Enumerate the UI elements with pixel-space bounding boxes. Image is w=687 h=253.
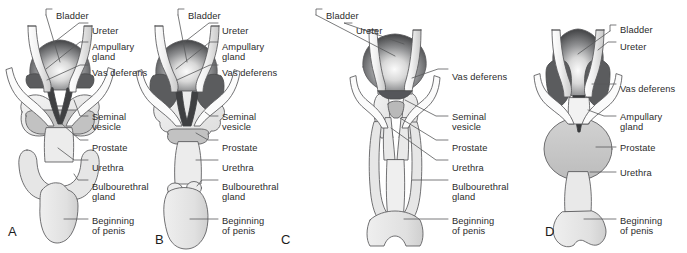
label-seminal-vesicle-b-1: Seminal [222,112,256,122]
label-ampullary-gland-d-2: gland [620,122,643,132]
label-bulbourethral-a-2: gland [92,192,115,202]
penis-shape-a [40,183,78,243]
label-penis-c-1: Beginning [452,216,494,226]
label-ampullary-gland-b-2: gland [222,52,245,62]
label-bulbourethral-c-1: Bulbourethral [452,182,509,192]
label-penis-d-1: Beginning [620,216,662,226]
label-bladder-b: Bladder [188,11,221,21]
panel-d-drawing [534,25,622,247]
label-seminal-vesicle-a-1: Seminal [92,112,126,122]
label-bladder-d: Bladder [620,25,653,35]
penis-shape-b [164,188,208,250]
penis-shape-c [367,211,423,246]
label-seminal-vesicle-b-2: vesicle [222,122,251,132]
label-urethra-a: Urethra [92,163,124,173]
label-ampullary-gland-b-1: Ampullary [222,42,264,52]
label-bulbourethral-a-1: Bulbourethral [92,182,149,192]
label-prostate-c: Prostate [452,143,487,153]
label-urethra-c: Urethra [452,163,484,173]
label-prostate-a: Prostate [92,143,127,153]
label-vas-deferens-d: Vas deferens [620,84,675,94]
label-vas-deferens-a: Vas deferens [92,68,147,78]
label-penis-a-1: Beginning [92,216,134,226]
label-ampullary-gland-a-1: Ampullary [92,42,134,52]
label-penis-d-2: of penis [620,226,653,236]
label-bladder-a: Bladder [56,11,89,21]
label-ureter-c: Ureter [356,26,382,36]
label-ampullary-gland-a-2: gland [92,52,115,62]
label-bulbourethral-b-1: Bulbourethral [222,182,279,192]
panel-c-drawing [316,9,448,246]
label-seminal-vesicle-c-2: vesicle [452,122,481,132]
label-ureter-a: Ureter [92,26,118,36]
label-seminal-vesicle-c-1: Seminal [452,112,486,122]
label-penis-b-2: of penis [222,226,255,236]
label-bulbourethral-b-2: gland [222,192,245,202]
panel-letter-b: B [155,232,164,247]
label-vas-deferens-c: Vas deferens [452,72,507,82]
label-bulbourethral-c-2: gland [452,192,475,202]
label-bladder-c: Bladder [326,11,359,21]
panel-letter-d: D [545,224,555,239]
label-penis-b-1: Beginning [222,216,264,226]
label-urethra-d: Urethra [620,168,652,178]
panel-letter-a: A [8,224,17,239]
urethra-shape-d [565,172,592,212]
urethra-shape-b [175,142,202,184]
penis-shape-d [553,211,606,247]
label-ureter-d: Ureter [620,42,646,52]
panel-letter-c: C [281,232,291,247]
label-ampullary-gland-d-1: Ampullary [620,112,662,122]
label-prostate-d: Prostate [620,143,655,153]
label-urethra-b: Urethra [222,163,254,173]
label-penis-c-2: of penis [452,226,485,236]
anatomy-figure: Bladder Ureter Ampullary gland Vas defer… [0,0,687,253]
label-seminal-vesicle-a-2: vesicle [92,122,121,132]
prostate-shape-c [388,101,404,118]
label-prostate-b: Prostate [222,143,257,153]
label-ureter-b: Ureter [222,26,248,36]
label-penis-a-2: of penis [92,226,125,236]
urethra-shape-c-center [386,160,404,218]
label-vas-deferens-b: Vas deferens [222,68,277,78]
